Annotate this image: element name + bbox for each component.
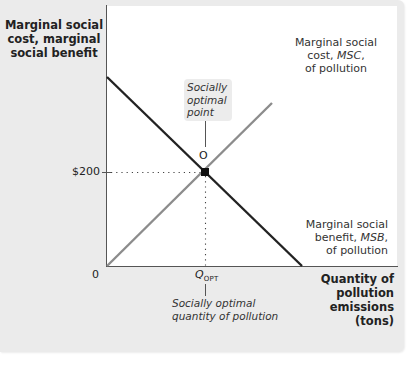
msb-label-line2: benefit, MSB, — [282, 231, 388, 244]
msc-label-line3: of pollution — [284, 62, 388, 75]
y-axis-label: Marginal social cost, marginal social be… — [2, 18, 106, 60]
optimal-point-annotation: Socially optimal point — [184, 79, 232, 121]
x-axis-label: Quantity of pollution emissions (tons) — [296, 272, 394, 328]
optimal-quantity-annotation: Socially optimal quantity of pollution — [172, 297, 282, 322]
msc-curve — [107, 103, 272, 266]
q-opt-label: QOPT — [195, 268, 219, 283]
msc-label-prefix: cost, — [307, 49, 337, 62]
q-opt-sub: OPT — [204, 275, 219, 283]
msb-label-comma: , — [385, 231, 389, 244]
msc-label-comma: , — [361, 49, 365, 62]
q-opt-main: Q — [195, 268, 204, 281]
optimal-point-marker-label: O — [199, 149, 208, 162]
msc-label: Marginal social cost, MSC, of pollution — [284, 36, 388, 75]
origin-label: 0 — [92, 268, 99, 281]
y-tick-label: $200 — [52, 165, 100, 178]
msc-abbrev: MSC — [337, 49, 361, 62]
msb-label-line1: Marginal social — [282, 218, 388, 231]
msc-label-line2: cost, MSC, — [284, 49, 388, 62]
msb-label-line3: of pollution — [282, 244, 388, 257]
msb-label-prefix: benefit, — [315, 231, 361, 244]
msc-label-line1: Marginal social — [284, 36, 388, 49]
equilibrium-marker — [201, 168, 209, 176]
msb-abbrev: MSB — [360, 231, 384, 244]
msb-label: Marginal social benefit, MSB, of polluti… — [282, 218, 388, 257]
